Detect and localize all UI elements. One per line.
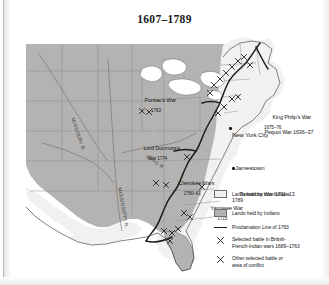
map-label-pontiacs-war-date: 1763 bbox=[136, 109, 176, 114]
legend-lands-non-indians-line2: 1789 bbox=[232, 197, 289, 203]
legend-key-battle-1 bbox=[212, 236, 229, 245]
legend-battle-other-line1: Other selected battle or bbox=[232, 255, 283, 261]
map-label-cherokee-wars-date: 1760–61 bbox=[170, 192, 214, 197]
map-label-pontiacs-war-text: Pontiac's War bbox=[144, 97, 176, 103]
legend-battle-british-french-indian: Selected battle in British- French-India… bbox=[212, 236, 324, 249]
map-label-cherokee-wars-text: Cherokee Wars bbox=[178, 180, 214, 186]
legend-battle-other-line2: area of conflict bbox=[232, 262, 283, 268]
page-edge-shading-bottom bbox=[0, 277, 329, 285]
proclamation-line-icon bbox=[214, 227, 227, 228]
page-gutter-shading bbox=[4, 0, 10, 285]
legend-battle-british-french-indian-line2: French-Indian wars 1689–1763 bbox=[232, 243, 300, 249]
legend-key-line bbox=[212, 223, 229, 228]
map-title: 1607–1789 bbox=[0, 13, 329, 25]
crossed-swords-icon bbox=[216, 236, 225, 245]
dark-swatch-icon bbox=[214, 209, 227, 217]
map-label-pontiacs-war: Pontiac's War 1763 bbox=[136, 92, 176, 125]
legend-key-light-swatch bbox=[212, 190, 229, 198]
new-york-city-marker bbox=[229, 127, 232, 130]
legend-key-battle-2 bbox=[212, 255, 229, 264]
map-label-lord-dunmores-war: Lord Dunmore's War 1774 bbox=[135, 140, 180, 173]
map-label-new-york-city: New York City bbox=[232, 132, 268, 138]
crossed-swords-icon bbox=[216, 255, 225, 264]
legend-lands-non-indians-line1: Lands held by non-Indians bbox=[232, 191, 289, 197]
map-legend: Lands held by non-Indians 1789 Lands hel… bbox=[212, 190, 324, 274]
legend-lands-indians-line1: Lands held by Indians bbox=[232, 210, 280, 216]
legend-lands-non-indians: Lands held by non-Indians 1789 bbox=[212, 190, 324, 203]
light-swatch-icon bbox=[214, 190, 227, 198]
legend-proclamation-line: Proclamation Line of 1763 bbox=[212, 223, 324, 230]
legend-lands-indians: Lands held by Indians bbox=[212, 209, 324, 217]
map-label-jamestown: Jamestown bbox=[235, 165, 264, 171]
legend-key-dark-swatch bbox=[212, 209, 229, 217]
legend-battle-other: Other selected battle or area of conflic… bbox=[212, 255, 324, 268]
map-label-pequot-war-text: Pequot War 1636–37 bbox=[264, 129, 313, 135]
map-label-lord-dunmores-war-text: Lord Dunmore's bbox=[143, 145, 180, 151]
map-page: 1607–1789 bbox=[0, 0, 329, 285]
map-label-king-philips-war-text: King Philip's War bbox=[272, 114, 311, 120]
legend-proclamation-line-line1: Proclamation Line of 1763 bbox=[232, 224, 289, 230]
legend-battle-british-french-indian-line1: Selected battle in British- bbox=[232, 236, 286, 242]
